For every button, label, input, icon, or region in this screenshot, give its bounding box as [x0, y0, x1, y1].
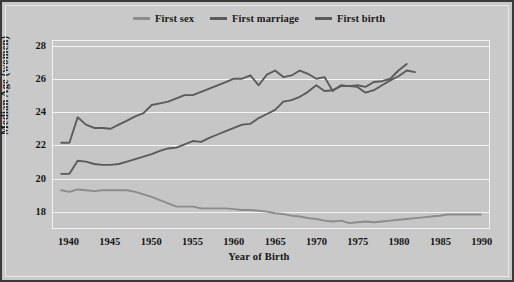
- x-tick-label: 1975: [347, 236, 368, 247]
- legend-label-first-sex: First sex: [155, 13, 194, 24]
- x-tick-label: 1940: [58, 236, 79, 247]
- x-tick-label: 1945: [99, 236, 120, 247]
- plot-area: [52, 40, 490, 229]
- x-tick-label: 1955: [182, 236, 203, 247]
- y-axis-label: Median Age (women): [0, 36, 10, 135]
- y-tick-label: 22: [2, 139, 46, 150]
- chart-legend: First sex First marriage First birth: [2, 13, 514, 24]
- legend-item-first-sex: First sex: [133, 13, 194, 24]
- x-axis-label: Year of Birth: [2, 251, 514, 262]
- y-tick-label: 28: [2, 39, 46, 50]
- legend-swatch-first-birth: [315, 17, 332, 20]
- series-line-first-birth: [61, 64, 407, 143]
- legend-swatch-first-marriage: [210, 17, 227, 20]
- legend-item-first-marriage: First marriage: [210, 13, 299, 24]
- x-tick-label: 1950: [141, 236, 162, 247]
- x-tick-label: 1990: [471, 236, 492, 247]
- x-tick-label: 1980: [389, 236, 410, 247]
- y-tick-label: 26: [2, 73, 46, 84]
- x-tick-label: 1970: [306, 236, 327, 247]
- y-tick-label: 24: [2, 106, 46, 117]
- y-tick-label: 18: [2, 205, 46, 216]
- x-tick-label: 1985: [430, 236, 451, 247]
- x-tick-label: 1960: [223, 236, 244, 247]
- series-line-first-sex: [61, 189, 481, 223]
- legend-label-first-birth: First birth: [337, 13, 385, 24]
- chart-lines: [53, 41, 489, 228]
- y-tick-label: 20: [2, 172, 46, 183]
- chart-figure: First sex First marriage First birth Med…: [0, 0, 514, 282]
- legend-item-first-birth: First birth: [315, 13, 385, 24]
- legend-label-first-marriage: First marriage: [232, 13, 299, 24]
- plot-wrapper: 282624222018 194019451950195519601965197…: [52, 40, 490, 229]
- x-tick-label: 1965: [265, 236, 286, 247]
- legend-swatch-first-sex: [133, 17, 150, 20]
